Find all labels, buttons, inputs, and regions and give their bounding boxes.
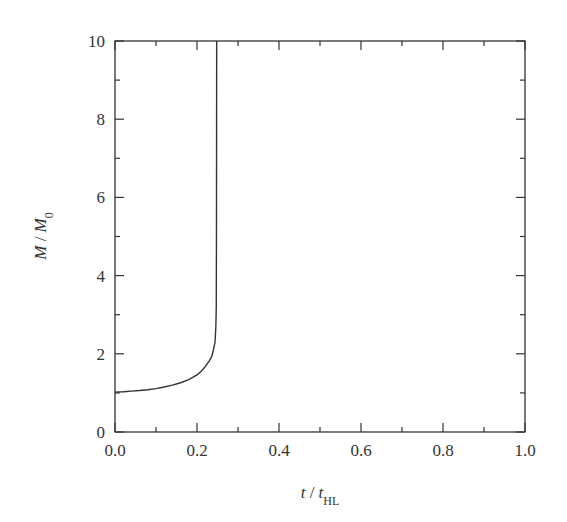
y-axis-label: M / M0 [31,212,56,261]
axis-ticks [115,41,525,432]
y-tick-label: 10 [88,32,105,51]
x-axis-label: t / tHL [301,483,340,508]
x-tick-label: 0.6 [350,441,371,460]
y-tick-label: 2 [97,345,106,364]
data-line [115,41,217,392]
y-tick-label: 4 [97,267,106,286]
plot-frame [115,41,525,432]
tick-labels: 0.00.20.40.60.81.00246810 [88,32,536,460]
x-tick-label: 0.2 [186,441,207,460]
x-tick-label: 1.0 [514,441,535,460]
y-tick-label: 0 [97,423,106,442]
y-tick-label: 6 [97,188,106,207]
y-tick-label: 8 [97,110,106,129]
x-tick-label: 0.8 [432,441,453,460]
chart: 0.00.20.40.60.81.00246810 t / tHL M / M0 [0,0,567,522]
x-tick-label: 0.4 [268,441,290,460]
x-tick-label: 0.0 [104,441,125,460]
